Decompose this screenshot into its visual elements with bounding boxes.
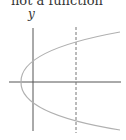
parabola-curve bbox=[21, 32, 120, 130]
graph bbox=[0, 0, 126, 140]
